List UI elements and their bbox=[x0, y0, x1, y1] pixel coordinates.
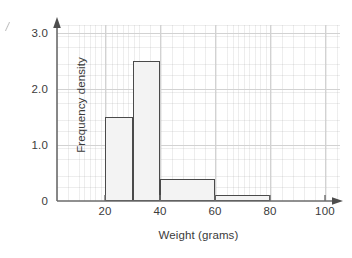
y-tick-label-3: 3.0 bbox=[8, 27, 48, 39]
x-tick-label-80: 80 bbox=[250, 205, 290, 217]
gridline-x-40 bbox=[160, 25, 161, 201]
plot-area: Frequency density bbox=[57, 25, 340, 201]
histogram-bar-30-40 bbox=[133, 61, 160, 201]
x-tick-label-100: 100 bbox=[305, 205, 345, 217]
y-tick-label-0: 0 bbox=[8, 195, 48, 207]
gridline-x-60 bbox=[215, 25, 216, 201]
histogram-bar-20-30 bbox=[105, 117, 133, 201]
gridline-x-100 bbox=[325, 25, 326, 201]
gridline-y-1 bbox=[57, 145, 340, 146]
x-tick-label-20: 20 bbox=[85, 205, 125, 217]
histogram-figure: Frequency density 3.0 2.0 1.0 0 20 40 60… bbox=[0, 0, 352, 258]
histogram-bar-60-80 bbox=[215, 195, 270, 201]
x-tick-label-60: 60 bbox=[195, 205, 235, 217]
gridline-x-80 bbox=[270, 25, 271, 201]
x-axis-label: Weight (grams) bbox=[57, 229, 340, 241]
x-tick-label-40: 40 bbox=[140, 205, 180, 217]
y-axis-label: Frequency density bbox=[75, 35, 87, 175]
y-tick-label-1: 1.0 bbox=[8, 139, 48, 151]
gridline-y-2 bbox=[57, 89, 340, 90]
gridline-y-3 bbox=[57, 33, 340, 34]
minor-gridlines bbox=[57, 25, 340, 201]
y-tick-label-2: 2.0 bbox=[8, 83, 48, 95]
histogram-bar-40-60 bbox=[160, 179, 215, 201]
